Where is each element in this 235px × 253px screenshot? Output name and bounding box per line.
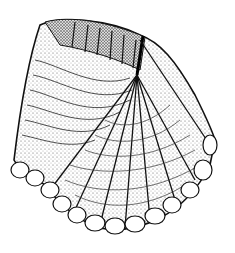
shell-illustration (0, 0, 235, 253)
shell-drawing (0, 0, 235, 253)
